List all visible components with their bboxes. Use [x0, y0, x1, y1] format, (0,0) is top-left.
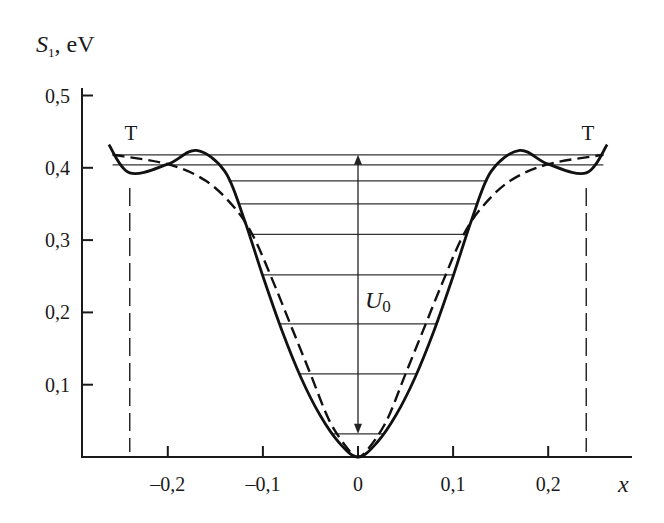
y-tick-label: 0,4 — [45, 157, 70, 179]
x-tick-label: 0,1 — [441, 473, 466, 495]
u0-label: U0 — [365, 287, 391, 316]
x-tick-label: –0,2 — [149, 473, 185, 495]
y-tick-label: 0,5 — [45, 85, 70, 107]
annotations: U0TT — [125, 121, 595, 434]
arrow-up-icon — [354, 155, 362, 165]
arrow-down-icon — [354, 424, 362, 434]
potential-well-chart: S1, eV x 0,10,20,30,40,5–0,2–0,100,10,2 … — [0, 0, 664, 523]
y-tick-label: 0,1 — [45, 374, 70, 396]
y-tick-label: 0,2 — [45, 301, 70, 323]
x-axis-label: x — [617, 471, 629, 497]
x-tick-label: 0 — [353, 473, 363, 495]
y-tick-label: 0,3 — [45, 229, 70, 251]
x-tick-label: –0,1 — [244, 473, 280, 495]
turning-point-label: T — [582, 121, 595, 145]
turning-point-label: T — [125, 121, 138, 145]
y-axis-label: S1, eV — [36, 31, 95, 60]
x-tick-label: 0,2 — [536, 473, 561, 495]
